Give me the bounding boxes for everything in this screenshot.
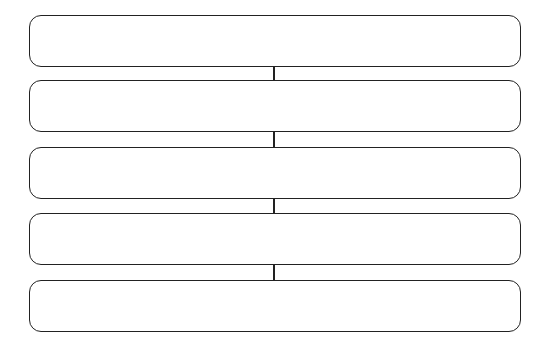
connector-2-3: [273, 132, 275, 148]
flowchart-box-2: [29, 80, 521, 132]
connector-4-5: [273, 265, 275, 281]
flowchart-box-3: [29, 147, 521, 199]
connector-3-4: [273, 199, 275, 214]
flowchart-box-1: [29, 15, 521, 67]
flowchart-box-4: [29, 213, 521, 265]
connector-1-2: [273, 67, 275, 81]
flowchart-box-5: [29, 280, 521, 332]
